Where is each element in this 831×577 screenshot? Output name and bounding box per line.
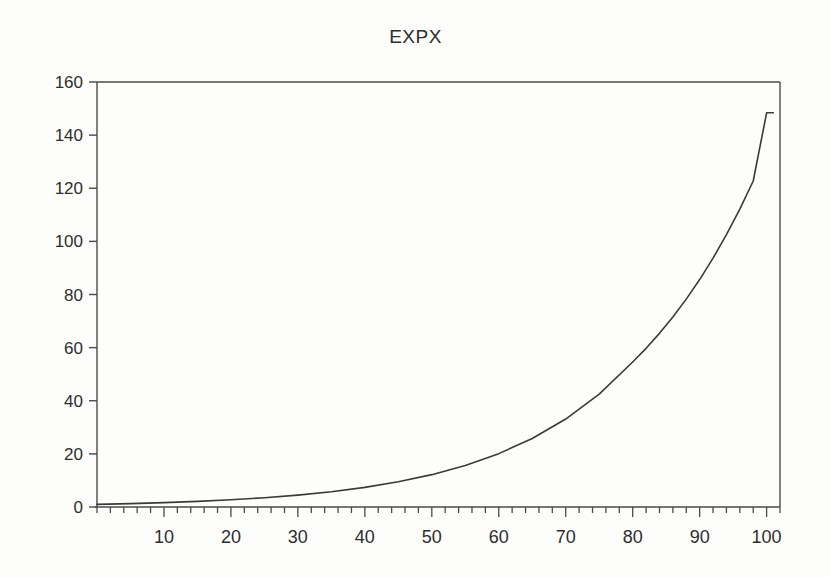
y-tick-label: 20 [64,445,83,464]
x-tick-label: 60 [489,527,509,547]
x-tick-label: 80 [623,527,643,547]
y-tick-label: 120 [55,179,83,198]
x-tick-label: 30 [288,527,308,547]
x-tick-label: 70 [556,527,576,547]
y-tick-label: 60 [64,339,83,358]
x-axis-ticks [97,507,780,517]
y-tick-label: 40 [64,392,83,411]
axis-frame [95,82,780,507]
chart-figure: EXPX 020406080100120140160 1020304050607… [0,0,831,577]
y-tick-label: 140 [55,126,83,145]
y-axis-tick-labels: 020406080100120140160 [55,73,83,517]
x-tick-label: 50 [422,527,442,547]
y-axis-ticks [89,82,97,507]
x-tick-label: 40 [355,527,375,547]
x-tick-label: 90 [690,527,710,547]
y-tick-label: 0 [74,498,83,517]
x-tick-label: 20 [221,527,241,547]
series-line [97,113,773,505]
y-tick-label: 80 [64,286,83,305]
y-tick-label: 160 [55,73,83,92]
x-axis-tick-labels: 102030405060708090100 [154,527,782,547]
y-tick-label: 100 [55,232,83,251]
data-series-line [97,113,773,505]
x-tick-label: 100 [752,527,782,547]
plot-area: 020406080100120140160 102030405060708090… [0,0,831,577]
x-tick-label: 10 [154,527,174,547]
